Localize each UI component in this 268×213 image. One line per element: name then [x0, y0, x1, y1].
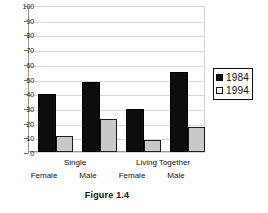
bar-1984-single-female[interactable] [38, 94, 56, 152]
bar-1994-living-together-female[interactable] [144, 140, 161, 152]
category-label-living-together-male: Male [146, 171, 206, 180]
hollow-square-icon [216, 87, 223, 94]
legend: 1984 1994 [213, 68, 253, 100]
legend-item-1994[interactable]: 1994 [216, 84, 249, 97]
bar-1994-living-together-male[interactable] [188, 127, 205, 152]
legend-item-1984[interactable]: 1984 [216, 71, 249, 84]
figure-caption: Figure 1.4 [0, 190, 214, 200]
legend-label-1984: 1984 [226, 72, 249, 83]
bar-1984-single-male[interactable] [82, 82, 100, 152]
bar-1984-living-together-female[interactable] [126, 109, 144, 153]
bar-1984-living-together-male[interactable] [170, 72, 188, 152]
group-label-living-together: Living Together [119, 158, 207, 167]
filled-square-icon [216, 74, 223, 81]
bar-series-container [29, 7, 204, 152]
legend-label-1994: 1994 [226, 85, 249, 96]
figure-container: 100 90 80 70 60 50 40 30 20 10 0 Single … [0, 0, 268, 213]
bar-1994-single-male[interactable] [100, 119, 117, 152]
group-label-single: Single [31, 158, 119, 167]
bar-1994-single-female[interactable] [56, 136, 73, 152]
